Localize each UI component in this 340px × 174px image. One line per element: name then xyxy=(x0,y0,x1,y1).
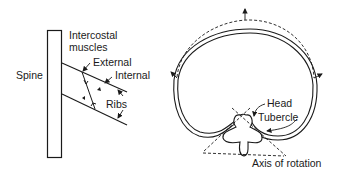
internal-label: Internal xyxy=(115,69,150,81)
internal-arrow-icon xyxy=(82,96,85,100)
internal-leader xyxy=(105,77,112,83)
tubercle-label: Tubercle xyxy=(258,111,299,123)
head-label: Head xyxy=(267,97,292,109)
vertebra-shape xyxy=(223,114,262,156)
ribs-label: Ribs xyxy=(106,98,127,110)
intercostal-label-line2: muscles xyxy=(69,41,108,53)
spine-shape xyxy=(48,31,62,158)
rib-rotation-figure: Head Tubercle Axis of rotation xyxy=(171,9,322,169)
axis-of-rotation-label: Axis of rotation xyxy=(252,157,322,169)
intercostal-figure: Intercostal muscles Spine External Inter… xyxy=(16,29,150,158)
internal-arrow-icon xyxy=(97,87,101,91)
ribs-leader-lower xyxy=(118,110,123,118)
external-leader xyxy=(83,63,90,71)
intercostal-label-line1: Intercostal xyxy=(69,29,117,41)
diagram-canvas: Intercostal muscles Spine External Inter… xyxy=(0,0,340,174)
spine-label: Spine xyxy=(16,69,43,81)
ribs-leader-upper xyxy=(118,90,123,96)
external-label: External xyxy=(93,56,132,68)
